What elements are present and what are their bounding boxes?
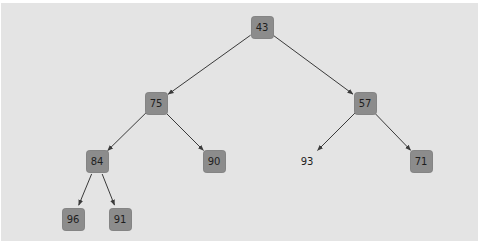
edge-43-to-75 bbox=[168, 35, 250, 94]
node-label: 75 bbox=[150, 98, 163, 109]
tree-node-43[interactable]: 43 bbox=[251, 16, 274, 39]
node-label: 57 bbox=[359, 98, 372, 109]
node-label: 90 bbox=[208, 156, 221, 167]
tree-node-84[interactable]: 84 bbox=[86, 150, 109, 173]
edge-57-to-93 bbox=[318, 113, 355, 150]
node-label: 96 bbox=[67, 214, 80, 225]
edge-75-to-90 bbox=[166, 113, 203, 150]
tree-node-75[interactable]: 75 bbox=[145, 92, 168, 115]
edge-75-to-84 bbox=[108, 113, 146, 151]
node-label: 84 bbox=[91, 156, 104, 167]
edge-84-to-91 bbox=[102, 174, 114, 205]
node-label: 91 bbox=[114, 214, 127, 225]
edge-84-to-96 bbox=[79, 174, 92, 205]
tree-node-57[interactable]: 57 bbox=[354, 92, 377, 115]
tree-node-90[interactable]: 90 bbox=[203, 150, 226, 173]
tree-node-96[interactable]: 96 bbox=[62, 208, 85, 231]
node-label: 43 bbox=[256, 22, 269, 33]
node-label: 93 bbox=[301, 156, 314, 167]
edge-43-to-57 bbox=[273, 35, 353, 94]
tree-edges bbox=[0, 0, 482, 242]
tree-node-93[interactable]: 93 bbox=[296, 150, 319, 173]
tree-node-91[interactable]: 91 bbox=[109, 208, 132, 231]
node-label: 71 bbox=[415, 156, 428, 167]
tree-node-71[interactable]: 71 bbox=[410, 150, 433, 173]
edge-57-to-71 bbox=[375, 113, 411, 150]
